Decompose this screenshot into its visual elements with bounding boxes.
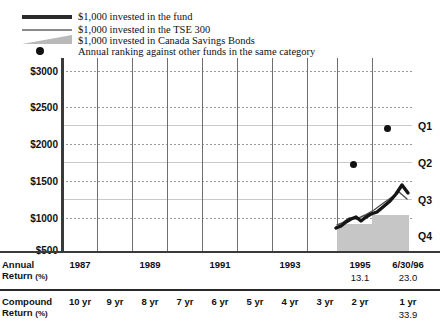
compound-period-9yr: 9 yr [97,296,133,307]
returns-table: Annual Return (%) 1987 1989 1991 1993 19… [0,251,440,327]
annual-value-63096: 23.0 [382,272,434,283]
quartile-label-q1: Q1 [418,120,432,132]
compound-period-1yr: 1 yr [382,296,434,307]
annual-period-1987: 1987 [62,259,98,270]
legend-label-tse300: $1,000 invested in the TSE 300 [78,24,210,35]
quartile-label-q3: Q3 [418,194,432,206]
compound-period-10yr: 10 yr [62,296,98,307]
chart-series-svg [62,58,412,251]
annual-period-1989: 1989 [132,259,168,270]
fund-line-swatch-icon [22,15,72,19]
compound-period-3yr: 3 yr [307,296,343,307]
annual-period-1995: 1995 [342,259,378,270]
ranking-dot-1996-q1 [384,125,391,132]
y-tick-3000: $3000 [0,66,58,77]
ranking-dot-1995-q2 [350,161,357,168]
legend-label-ranking: Annual ranking against other funds in th… [78,46,315,57]
compound-period-2yr: 2 yr [342,296,378,307]
annual-period-1991: 1991 [202,259,238,270]
compound-value-1yr: 33.9 [382,309,434,320]
table-divider [0,289,440,291]
annual-value-1995: 13.1 [342,272,378,283]
chart-plot-area [62,58,412,251]
legend-label-fund: $1,000 invested in the fund [78,11,193,22]
annual-return-row-label: Annual Return (%) [2,259,48,282]
y-tick-1000: $1000 [0,213,58,224]
fund-line [336,185,408,228]
tse-line-swatch-icon [22,29,72,31]
compound-return-row-label: Compound Return (%) [2,296,52,319]
annual-period-1993: 1993 [272,259,308,270]
quartile-label-q4: Q4 [418,230,432,242]
chart-legend: $1,000 invested in the fund $1,000 inves… [0,0,440,56]
compound-period-6yr: 6 yr [202,296,238,307]
compound-period-7yr: 7 yr [167,296,203,307]
compound-period-4yr: 4 yr [272,296,308,307]
quartile-label-q2: Q2 [418,157,432,169]
y-axis-line [61,58,64,251]
y-tick-1500: $1500 [0,176,58,187]
legend-label-csb: $1,000 invested in Canada Savings Bonds [78,35,255,46]
compound-period-5yr: 5 yr [237,296,273,307]
compound-period-8yr: 8 yr [132,296,168,307]
annual-period-63096: 6/30/96 [382,259,434,270]
y-tick-2500: $2500 [0,102,58,113]
ranking-dot-swatch-icon [36,47,44,55]
y-tick-2000: $2000 [0,139,58,150]
csb-area-swatch-icon [22,35,72,45]
